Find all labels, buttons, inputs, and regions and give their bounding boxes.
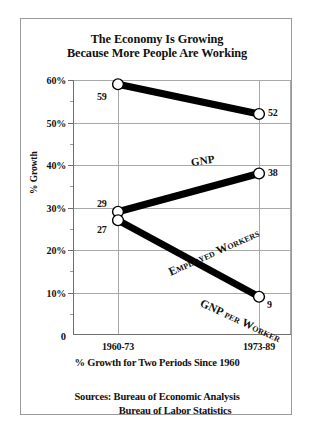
point-label-gnp-per-worker-9: 9 <box>267 299 272 310</box>
xtick-label-1973-89: 1973-89 <box>243 341 275 352</box>
sources-block: Sources: Bureau of Economic Analysis Bur… <box>21 390 293 418</box>
marker-gnp-per-worker-1960-73 <box>113 215 124 226</box>
y-axis-title: % Growth <box>29 151 39 194</box>
ytick-label-30: 30% <box>47 202 66 213</box>
xtick-label-1960-73: 1960-73 <box>102 341 134 352</box>
sources-line-2: Bureau of Labor Statistics <box>21 404 293 418</box>
marker-employed-workers-1973-89 <box>254 168 265 179</box>
chart-title-line-2: Because More People Are Working <box>21 47 293 61</box>
plot-area: 60% 50% 40% 30% 20% 10% 0 1960-73 1973-8… <box>73 80 291 335</box>
point-label-employed-29: 29 <box>97 198 107 209</box>
chart-title: The Economy Is Growing Because More Peop… <box>21 33 293 60</box>
marker-gnp-per-worker-1973-89 <box>254 291 265 302</box>
point-label-employed-38: 38 <box>268 167 278 178</box>
ytick-label-0: 0 <box>61 331 66 342</box>
ytick-label-40: 40% <box>47 160 66 171</box>
chart-title-line-1: The Economy Is Growing <box>21 33 293 47</box>
series-line-gnp <box>118 84 259 114</box>
series-line-employed-workers <box>118 174 259 212</box>
x-axis-caption: % Growth for Two Periods Since 1960 <box>21 357 293 368</box>
marker-gnp-1960-73 <box>113 79 124 90</box>
ytick-label-10: 10% <box>47 287 66 298</box>
ytick-label-50: 50% <box>47 117 66 128</box>
point-label-gnp-59: 59 <box>97 91 107 102</box>
figure-frame: The Economy Is Growing Because More Peop… <box>20 18 292 415</box>
ytick-label-20: 20% <box>47 245 66 256</box>
ytick-label-60: 60% <box>47 75 66 86</box>
point-label-gnp-52: 52 <box>268 107 278 118</box>
marker-gnp-1973-89 <box>254 109 265 120</box>
point-label-gnp-per-worker-27: 27 <box>97 224 107 235</box>
sources-line-1: Sources: Bureau of Economic Analysis <box>21 390 293 404</box>
